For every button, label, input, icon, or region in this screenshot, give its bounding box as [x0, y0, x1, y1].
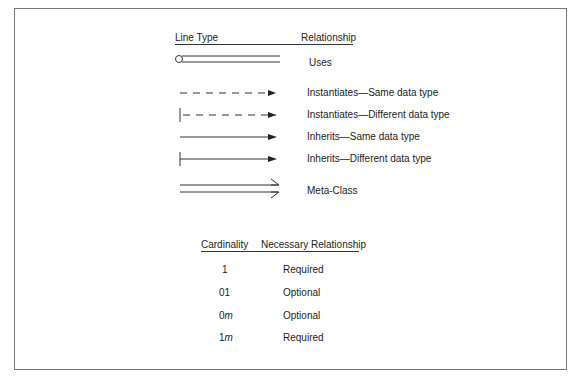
relationship-label: Inherits—Same data type — [307, 131, 420, 143]
cardinality-header: Cardinality — [201, 239, 248, 251]
cardinality-header-rule — [201, 251, 359, 252]
cardinality-relationship: Optional — [283, 310, 320, 322]
relationship-label: Uses — [309, 57, 332, 69]
relationship-label: Instantiates—Same data type — [307, 87, 438, 99]
relationship-label: Inherits—Different data type — [307, 153, 431, 165]
dashed-arrow-tick-icon — [179, 107, 289, 123]
cardinality-relationship: Optional — [283, 287, 320, 299]
solid-arrow-icon — [180, 132, 290, 142]
cardinality-value: 1m — [219, 332, 233, 344]
relationship-label: Meta-Class — [307, 185, 358, 197]
cardinality-value: 01 — [219, 287, 230, 299]
legend-header-rule — [175, 44, 353, 45]
cardinality-relationship: Required — [283, 332, 324, 344]
relationship-label: Instantiates—Different data type — [307, 109, 450, 121]
relationship-header: Relationship — [301, 32, 356, 44]
solid-arrow-tick-icon — [179, 151, 289, 167]
line-type-header: Line Type — [175, 32, 218, 44]
cardinality-relationship: Required — [283, 264, 324, 276]
necessary-relationship-header: Necessary Relationship — [261, 239, 366, 251]
dashed-arrow-icon — [180, 88, 280, 98]
double-open-arrow-icon — [179, 179, 291, 199]
cardinality-value: 0m — [219, 310, 233, 322]
cardinality-value: 1 — [222, 264, 228, 276]
uses-line-icon — [174, 54, 284, 66]
